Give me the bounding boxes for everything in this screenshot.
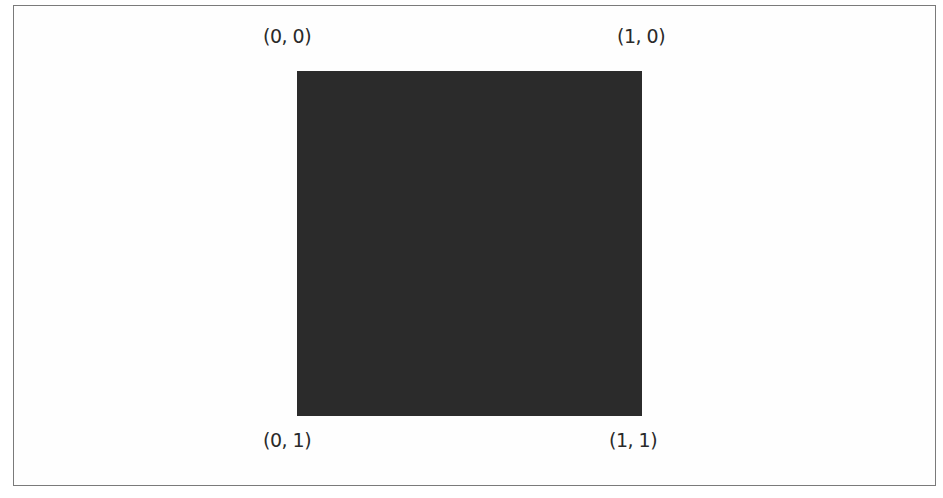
corner-label-bottom-right: (1, 1) — [609, 431, 657, 450]
corner-label-bottom-left: (0, 1) — [263, 431, 311, 450]
unit-square — [297, 71, 642, 416]
corner-label-top-left: (0, 0) — [263, 27, 311, 46]
corner-label-top-right: (1, 0) — [617, 27, 665, 46]
